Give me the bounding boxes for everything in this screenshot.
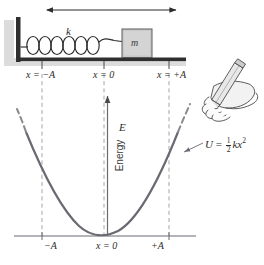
position-label-zero: x = 0 <box>93 70 114 80</box>
position-label-minus-A: x = −A <box>26 70 55 80</box>
formula-fraction: 12 <box>226 137 232 154</box>
curve-dashed-left <box>17 109 26 132</box>
hand-with-pencil-icon <box>202 59 257 121</box>
total-energy-label: E <box>119 122 126 133</box>
potential-energy-formula: U = 12kx2 <box>205 137 246 154</box>
spring-icon <box>21 37 123 55</box>
floor-line <box>16 58 186 62</box>
formula-denominator: 2 <box>226 146 232 154</box>
formula-exponent: 2 <box>242 136 246 145</box>
x-axis-label-plus-A: +A <box>151 241 164 251</box>
potential-label-leader <box>184 143 203 152</box>
position-label-plus-A: x = +A <box>157 70 186 80</box>
x-axis-label-minus-A: −A <box>44 241 57 251</box>
potential-energy-curve <box>17 104 190 235</box>
energy-axis-label: Energy <box>114 126 125 186</box>
vertical-guides <box>42 74 169 236</box>
formula-symbol: U <box>205 138 213 150</box>
mass-label: m <box>131 38 138 48</box>
curve-dashed-right <box>178 104 190 132</box>
physics-figure: k m x = −A x = 0 x = +A Energy E U = 12k… <box>0 0 264 265</box>
wall-icon <box>16 17 21 62</box>
spring-constant-label: k <box>66 26 71 37</box>
x-axis-label-zero: x = 0 <box>96 241 117 251</box>
